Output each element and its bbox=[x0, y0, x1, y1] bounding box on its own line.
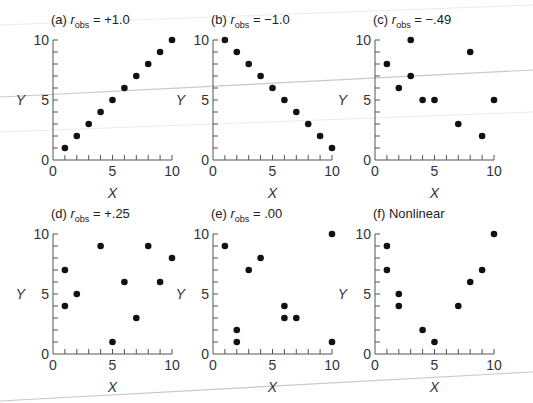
data-point bbox=[396, 85, 403, 92]
axis-lines bbox=[53, 234, 172, 354]
data-point bbox=[467, 49, 474, 56]
y-tick-label: 10 bbox=[355, 226, 371, 242]
data-point bbox=[62, 267, 69, 274]
y-tick-label: 10 bbox=[193, 226, 209, 242]
data-point bbox=[281, 97, 288, 104]
x-tick-label: 10 bbox=[486, 357, 502, 373]
x-tick-label: 0 bbox=[49, 357, 57, 373]
scan-artifact-line bbox=[0, 372, 533, 401]
y-tick-label: 5 bbox=[201, 286, 209, 302]
panel-title: (c) robs = −.49 bbox=[373, 12, 451, 30]
data-point bbox=[329, 231, 336, 238]
r-subscript: obs bbox=[396, 20, 411, 30]
x-tick-label: 0 bbox=[209, 163, 217, 179]
y-tick-label: 10 bbox=[355, 32, 371, 48]
data-point bbox=[384, 267, 391, 274]
y-tick-label: 0 bbox=[41, 346, 49, 362]
y-tick-label: 5 bbox=[363, 92, 371, 108]
data-point bbox=[145, 243, 152, 250]
y-axis-title: Y bbox=[176, 286, 187, 302]
y-tick-label: 10 bbox=[33, 32, 49, 48]
y-axis-title: Y bbox=[16, 286, 27, 302]
data-point bbox=[384, 243, 391, 250]
data-point bbox=[479, 267, 486, 274]
y-tick-label: 5 bbox=[41, 286, 49, 302]
scatter-panel-e: (e) robs = .0005100510XY bbox=[176, 206, 340, 395]
data-point bbox=[62, 145, 69, 152]
data-point bbox=[109, 339, 116, 346]
data-point bbox=[234, 49, 241, 56]
data-point bbox=[109, 97, 116, 104]
y-axis-title: Y bbox=[338, 92, 349, 108]
data-point bbox=[491, 231, 498, 238]
panel-letter: (b) bbox=[211, 12, 231, 27]
x-axis-title: X bbox=[107, 185, 118, 201]
x-tick-label: 10 bbox=[486, 163, 502, 179]
data-point bbox=[431, 97, 438, 104]
panel-title: (e) robs = .00 bbox=[211, 206, 282, 224]
data-point bbox=[407, 37, 414, 44]
x-tick-label: 10 bbox=[164, 357, 180, 373]
data-point bbox=[97, 109, 104, 116]
r-subscript: obs bbox=[75, 214, 90, 224]
y-tick-label: 5 bbox=[363, 286, 371, 302]
y-axis-title: Y bbox=[176, 92, 187, 108]
r-subscript: obs bbox=[235, 214, 250, 224]
panel-letter: (e) bbox=[211, 206, 231, 221]
y-tick-label: 0 bbox=[201, 152, 209, 168]
x-tick-label: 0 bbox=[371, 163, 379, 179]
data-point bbox=[169, 37, 176, 44]
panel-description: Nonlinear bbox=[389, 206, 445, 221]
x-tick-label: 5 bbox=[269, 357, 277, 373]
y-tick-label: 10 bbox=[193, 32, 209, 48]
scan-artifact-line bbox=[0, 112, 533, 132]
data-point bbox=[281, 315, 288, 322]
data-point bbox=[269, 85, 276, 92]
r-value: = +1.0 bbox=[89, 12, 129, 27]
x-tick-label: 5 bbox=[269, 163, 277, 179]
data-point bbox=[85, 121, 92, 128]
data-point bbox=[455, 121, 462, 128]
data-point bbox=[257, 73, 264, 80]
data-point bbox=[419, 97, 426, 104]
data-point bbox=[97, 243, 104, 250]
data-point bbox=[222, 243, 229, 250]
data-point bbox=[455, 303, 462, 310]
data-point bbox=[133, 315, 140, 322]
panel-title: (a) robs = +1.0 bbox=[51, 12, 130, 30]
x-axis-title: X bbox=[267, 185, 278, 201]
data-point bbox=[317, 133, 324, 140]
data-point bbox=[419, 327, 426, 334]
r-value: = −.49 bbox=[411, 12, 451, 27]
x-tick-label: 5 bbox=[431, 357, 439, 373]
x-tick-label: 10 bbox=[324, 163, 340, 179]
data-point bbox=[234, 339, 241, 346]
data-point bbox=[157, 279, 164, 286]
y-axis-title: Y bbox=[338, 286, 349, 302]
data-point bbox=[479, 133, 486, 140]
x-axis-title: X bbox=[107, 379, 118, 395]
axis-lines bbox=[375, 234, 494, 354]
data-point bbox=[222, 37, 229, 44]
scatter-panel-f: (f) Nonlinear05100510XY bbox=[338, 206, 502, 395]
data-point bbox=[431, 339, 438, 346]
data-point bbox=[245, 61, 252, 68]
x-axis-title: X bbox=[429, 379, 440, 395]
panel-letter: (d) bbox=[51, 206, 71, 221]
data-point bbox=[234, 327, 241, 334]
x-tick-label: 0 bbox=[49, 163, 57, 179]
scatter-panel-d: (d) robs = +.2505100510XY bbox=[16, 206, 180, 395]
scatter-panel-c: (c) robs = −.4905100510XY bbox=[338, 12, 502, 201]
data-point bbox=[396, 291, 403, 298]
data-point bbox=[329, 339, 336, 346]
y-axis-title: Y bbox=[16, 92, 27, 108]
panel-letter: (f) bbox=[373, 206, 389, 221]
y-tick-label: 5 bbox=[41, 92, 49, 108]
x-tick-label: 0 bbox=[209, 357, 217, 373]
panel-letter: (c) bbox=[373, 12, 392, 27]
data-point bbox=[293, 109, 300, 116]
r-subscript: obs bbox=[235, 20, 250, 30]
data-point bbox=[305, 121, 312, 128]
x-tick-label: 5 bbox=[109, 163, 117, 179]
panel-title: (f) Nonlinear bbox=[373, 206, 445, 221]
